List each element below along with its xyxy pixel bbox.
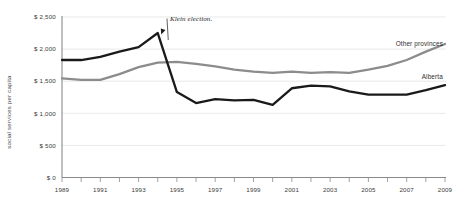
x-tick-label-group: 1989199119931995199719992001200320052007… <box>55 186 453 193</box>
y-tick-label-2500: $ 2,500 <box>34 13 56 20</box>
x-tick-label-1997: 1997 <box>208 186 223 193</box>
x-tick-label-1999: 1999 <box>246 186 261 193</box>
series-label-alberta: Alberta <box>422 73 444 80</box>
series-line-alberta <box>62 33 445 105</box>
y-tick-label-1000: $ 1,000 <box>34 110 56 117</box>
x-tick-label-2007: 2007 <box>400 186 415 193</box>
x-tick-label-1995: 1995 <box>170 186 185 193</box>
chart-canvas: $ 0$ 500$ 1,000$ 1,500$ 2,000$ 2,500 198… <box>0 0 454 204</box>
x-tick-label-1989: 1989 <box>55 186 70 193</box>
klein-election-annotation: Klein election. <box>161 15 213 40</box>
annotation-leader-line <box>167 19 168 41</box>
social-services-per-capita-line-chart: $ 0$ 500$ 1,000$ 1,500$ 2,000$ 2,500 198… <box>0 0 454 204</box>
series-label-other-provinces: Other provinces <box>396 40 443 48</box>
annotation-label: Klein election. <box>169 15 212 23</box>
x-tick-label-1993: 1993 <box>131 186 146 193</box>
x-tick-label-2001: 2001 <box>285 186 300 193</box>
annotation-arrowhead <box>161 28 166 34</box>
y-tick-label-0: $ 0 <box>47 174 57 181</box>
y-tick-label-1500: $ 1,500 <box>34 77 56 84</box>
gridline-group <box>62 17 446 145</box>
y-tick-label-500: $ 500 <box>40 142 57 149</box>
x-tick-mark-group <box>62 178 445 183</box>
y-tick-label-group: $ 0$ 500$ 1,000$ 1,500$ 2,000$ 2,500 <box>34 13 56 181</box>
y-tick-label-2000: $ 2,000 <box>34 45 56 52</box>
x-tick-label-2005: 2005 <box>361 186 376 193</box>
x-tick-label-2009: 2009 <box>438 186 453 193</box>
x-tick-label-2003: 2003 <box>323 186 338 193</box>
x-tick-label-1991: 1991 <box>93 186 108 193</box>
y-axis-title: social services per capita <box>5 75 12 149</box>
